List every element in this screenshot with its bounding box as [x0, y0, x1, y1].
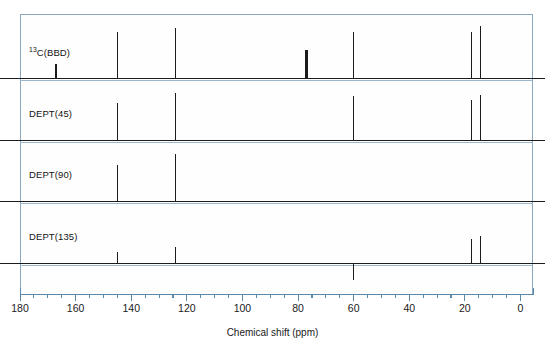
axis-tick-label: 100 — [234, 302, 252, 314]
axis-tick-minor — [159, 294, 160, 298]
axis-tick-minor — [450, 294, 451, 298]
axis-tick-minor — [117, 294, 118, 298]
axis-tick-minor — [33, 294, 34, 298]
axis-tick-major — [353, 294, 354, 301]
axis-tick-minor — [256, 294, 257, 298]
axis-tick-label: 140 — [122, 302, 140, 314]
axis-tick-minor — [200, 294, 201, 298]
axis-tick-major — [131, 294, 132, 301]
axis-tick-major — [409, 294, 410, 301]
axis-tick-minor — [492, 294, 493, 298]
axis-tick-major — [464, 294, 465, 301]
spectrum-panel — [0, 203, 545, 264]
axis-tick-major — [298, 294, 299, 301]
spectrum-peak — [353, 263, 354, 280]
axis-tick-minor — [381, 294, 382, 298]
axis-tick-minor — [367, 294, 368, 298]
axis-tick-major — [520, 294, 521, 301]
axis-tick-label: 40 — [403, 302, 415, 314]
axis-tick-minor — [61, 294, 62, 298]
axis-tick-label: 0 — [518, 302, 524, 314]
axis-tick-minor — [214, 294, 215, 298]
axis-tick-major — [242, 294, 243, 301]
axis-tick-minor — [103, 294, 104, 298]
axis-tick-minor — [47, 294, 48, 298]
spectrum-panel — [0, 15, 545, 79]
axis-end-cap — [533, 288, 534, 295]
axis-tick-minor — [284, 294, 285, 298]
axis-tick-minor — [437, 294, 438, 298]
axis-tick-minor — [89, 294, 90, 298]
axis-tick-label: 80 — [292, 302, 304, 314]
axis-tick-label: 60 — [348, 302, 360, 314]
axis-tick-minor — [172, 294, 173, 298]
axis-tick-minor — [228, 294, 229, 298]
axis-tick-label: 160 — [67, 302, 85, 314]
panel-divider — [20, 265, 533, 266]
nmr-spectra-figure: 13C(BBD)DEPT(45)DEPT(90)DEPT(135) 180160… — [0, 0, 545, 354]
axis-tick-minor — [145, 294, 146, 298]
axis-tick-label: 180 — [11, 302, 29, 314]
axis-tick-major — [20, 294, 21, 301]
axis-tick-minor — [423, 294, 424, 298]
axis-tick-major — [75, 294, 76, 301]
x-axis-title: Chemical shift (ppm) — [0, 327, 545, 338]
axis-end-cap — [20, 288, 21, 295]
axis-tick-minor — [395, 294, 396, 298]
axis-tick-label: 120 — [178, 302, 196, 314]
axis-tick-minor — [506, 294, 507, 298]
axis-tick-minor — [478, 294, 479, 298]
spectrum-panel — [0, 142, 545, 202]
axis-tick-minor — [325, 294, 326, 298]
x-axis-line — [20, 294, 533, 295]
axis-tick-major — [186, 294, 187, 301]
spectrum-panel — [0, 80, 545, 141]
axis-tick-minor — [270, 294, 271, 298]
axis-tick-minor — [311, 294, 312, 298]
axis-tick-minor — [339, 294, 340, 298]
axis-tick-label: 20 — [459, 302, 471, 314]
